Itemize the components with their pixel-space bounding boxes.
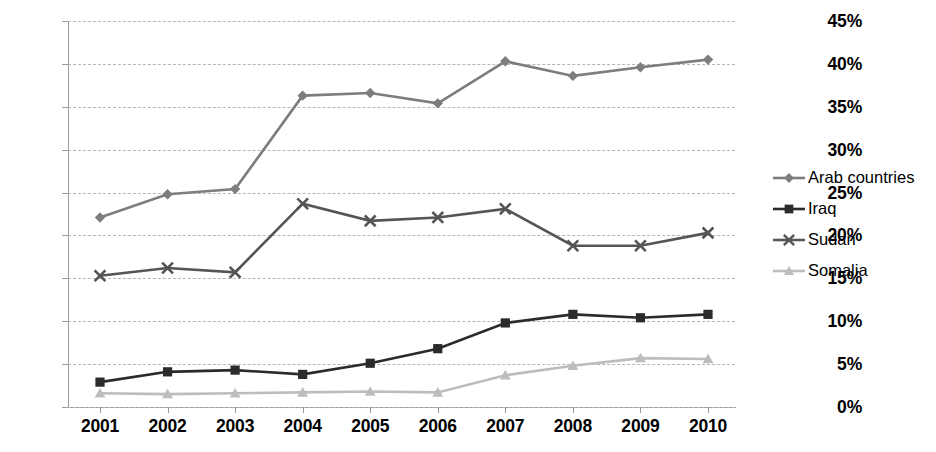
data-point	[433, 344, 442, 353]
data-point	[703, 54, 713, 64]
legend-label: Somalia	[806, 261, 868, 280]
data-point	[568, 310, 577, 319]
x-axis-label: 2006	[419, 416, 457, 437]
x-axis-tick	[573, 407, 574, 413]
data-point	[95, 378, 104, 387]
legend-item-iraq[interactable]: Iraq	[772, 193, 936, 224]
x-axis-tick	[370, 407, 371, 413]
data-point	[501, 318, 510, 327]
y-axis-label: 40%	[828, 53, 862, 74]
legend-marker-x-icon	[772, 231, 806, 249]
chart-legend: Arab countriesIraqSudanSomalia	[772, 162, 936, 286]
y-axis-label: 30%	[828, 139, 862, 160]
chart-title-cropped	[0, 0, 936, 12]
x-axis-label: 2010	[689, 416, 727, 437]
x-axis-label: 2002	[148, 416, 186, 437]
data-point	[635, 62, 645, 72]
legend-label: Iraq	[806, 199, 836, 218]
data-point	[298, 370, 307, 379]
x-axis-tick	[100, 407, 101, 413]
y-axis-label: 10%	[828, 311, 862, 332]
data-point	[636, 313, 645, 322]
legend-marker-triangle-icon	[772, 262, 806, 280]
y-axis-label: 5%	[837, 354, 862, 375]
x-axis-tick	[235, 407, 236, 413]
series-sudan	[95, 198, 714, 281]
y-axis-label: 35%	[828, 96, 862, 117]
x-axis-label: 2008	[554, 416, 592, 437]
data-point	[365, 88, 375, 98]
chart-root: 0%5%10%15%20%25%30%35%40%45% 20012002200…	[0, 0, 936, 452]
x-axis-label: 2004	[284, 416, 322, 437]
legend-item-sudan[interactable]: Sudan	[772, 224, 936, 255]
legend-label: Sudan	[806, 230, 856, 249]
x-axis-label: 2007	[486, 416, 524, 437]
x-axis-label: 2009	[621, 416, 659, 437]
data-point	[568, 71, 578, 81]
y-axis-label: 45%	[828, 11, 862, 32]
data-point	[163, 367, 172, 376]
x-axis-tick	[303, 407, 304, 413]
y-axis-label: 0%	[837, 397, 862, 418]
x-axis-label: 2003	[216, 416, 254, 437]
plot-area	[68, 21, 735, 407]
legend-item-somalia[interactable]: Somalia	[772, 255, 936, 286]
series-arab-countries	[95, 54, 713, 222]
legend-marker-diamond-icon	[772, 169, 806, 187]
series-line	[100, 314, 708, 382]
series-layer	[68, 21, 735, 407]
legend-marker-square-icon	[772, 200, 806, 218]
x-axis-tick	[505, 407, 506, 413]
x-axis-tick	[438, 407, 439, 413]
legend-item-arab-countries[interactable]: Arab countries	[772, 162, 936, 193]
series-line	[100, 60, 708, 218]
series-somalia	[95, 353, 714, 399]
legend-label: Arab countries	[806, 168, 914, 187]
x-axis-tick	[640, 407, 641, 413]
data-point	[95, 212, 105, 222]
data-point	[231, 366, 240, 375]
data-point	[366, 359, 375, 368]
series-line	[100, 204, 708, 276]
data-point	[162, 189, 172, 199]
y-axis-tick	[62, 407, 68, 408]
x-axis-tick	[168, 407, 169, 413]
x-axis-label: 2005	[351, 416, 389, 437]
series-line	[100, 358, 708, 394]
data-point	[703, 310, 712, 319]
series-iraq	[95, 310, 712, 387]
x-axis-tick	[708, 407, 709, 413]
x-axis-label: 2001	[81, 416, 119, 437]
